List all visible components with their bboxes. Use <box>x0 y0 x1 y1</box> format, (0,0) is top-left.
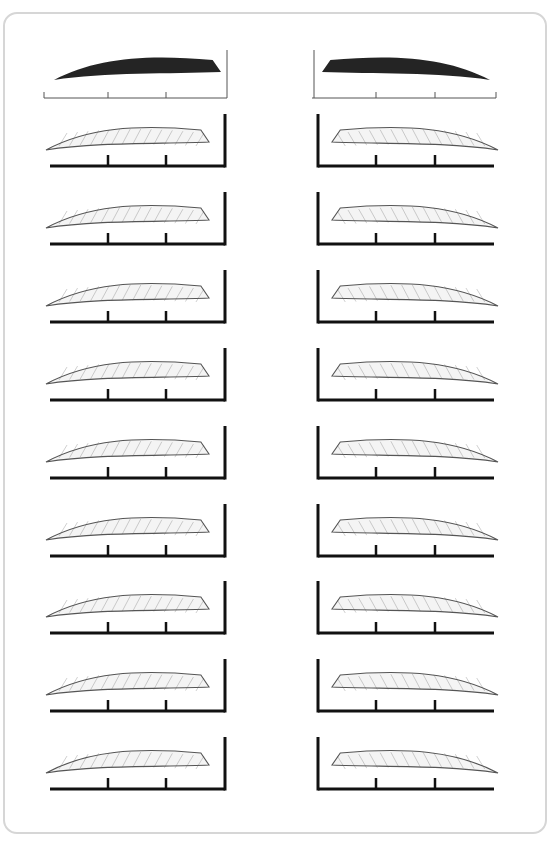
practice-brow <box>332 439 498 462</box>
practice-brow <box>332 672 498 695</box>
practice-brow <box>332 594 498 617</box>
eyebrow-grid <box>0 0 553 841</box>
practice-brow <box>332 283 498 306</box>
practice-brow <box>332 361 498 384</box>
practice-brow <box>332 127 498 150</box>
practice-brow <box>46 517 209 540</box>
practice-brow <box>46 205 209 228</box>
practice-brow <box>332 517 498 540</box>
practice-brow <box>332 205 498 228</box>
practice-brow <box>332 750 498 773</box>
practice-brow <box>46 127 209 150</box>
practice-brow <box>46 750 209 773</box>
reference-brow <box>322 57 490 80</box>
practice-brow <box>46 283 209 306</box>
practice-brow <box>46 439 209 462</box>
reference-brow <box>54 57 221 80</box>
practice-brow <box>46 361 209 384</box>
practice-brow <box>46 672 209 695</box>
practice-brow <box>46 594 209 617</box>
